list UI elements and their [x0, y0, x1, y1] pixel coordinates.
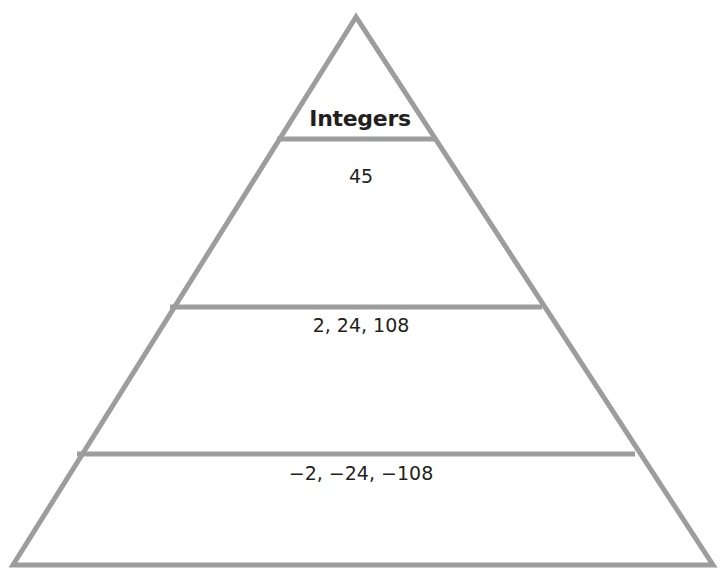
pyramid-outline — [0, 0, 722, 588]
integers-pyramid-diagram: Integers 45 2, 24, 108 −2, −24, −108 — [0, 0, 722, 588]
tier-bottom-values: −2, −24, −108 — [0, 462, 722, 484]
tier-middle-values: 2, 24, 108 — [0, 314, 722, 336]
tier-upper-values: 45 — [0, 165, 722, 187]
pyramid-title: Integers — [0, 106, 721, 131]
